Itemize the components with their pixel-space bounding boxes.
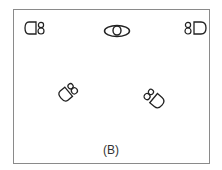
speaker-top-right-icon — [184, 21, 208, 35]
speaker-middle-left-icon — [56, 79, 80, 103]
oval-target-icon — [103, 24, 131, 38]
figure-caption: (B) — [0, 143, 222, 157]
speaker-top-left-icon — [24, 21, 48, 35]
speaker-middle-right-icon — [143, 86, 167, 110]
